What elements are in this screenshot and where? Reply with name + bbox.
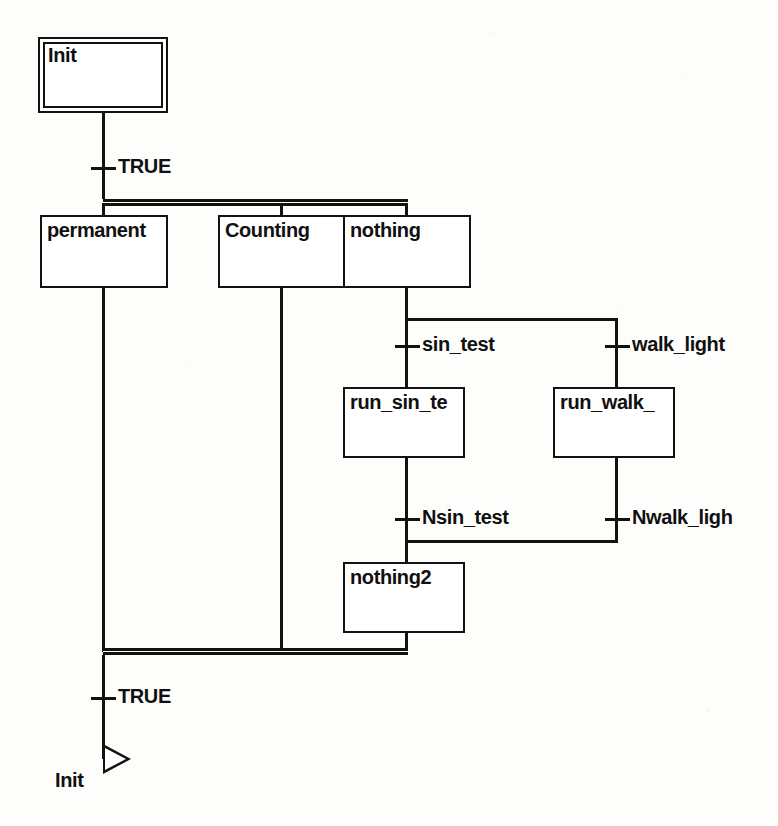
- link-run-walk-to-merge: [615, 458, 618, 543]
- link-walk-light-branch: [615, 318, 618, 389]
- step-run-sin-te[interactable]: run_sin_te: [343, 387, 465, 458]
- transition-label-bottom-true: TRUE: [118, 686, 171, 706]
- link-permanent-to-convergence: [102, 288, 105, 652]
- parallel-divergence-bar: [103, 199, 408, 206]
- step-init[interactable]: Init: [38, 37, 168, 113]
- step-counting[interactable]: Counting: [218, 215, 346, 288]
- link-counting-to-convergence: [280, 288, 283, 652]
- step-permanent[interactable]: permanent: [40, 215, 168, 288]
- step-permanent-label: permanent: [47, 218, 146, 242]
- transition-tick-init-true[interactable]: [91, 167, 116, 170]
- transition-label-sin-test: sin_test: [422, 334, 494, 354]
- selective-divergence-line: [405, 318, 617, 321]
- sfc-diagram-canvas: Init permanent Counting nothing run_sin_…: [0, 0, 778, 826]
- link-run-sin-te-to-merge: [405, 458, 408, 543]
- transition-tick-walk-light[interactable]: [605, 345, 630, 348]
- jump-arrow-icon[interactable]: [103, 744, 131, 774]
- step-run-walk[interactable]: run_walk_: [553, 387, 675, 458]
- link-divergence-to-nothing: [405, 203, 408, 217]
- parallel-convergence-bar: [103, 648, 408, 655]
- step-run-sin-te-label: run_sin_te: [350, 390, 447, 414]
- transition-label-nwalk-ligh: Nwalk_ligh: [632, 507, 732, 527]
- transition-label-init-true: TRUE: [118, 156, 171, 176]
- link-init-to-divergence: [102, 113, 105, 199]
- transition-label-walk-light: walk_light: [632, 334, 725, 354]
- jump-arrow-inner-cut: [105, 748, 126, 770]
- step-nothing[interactable]: nothing: [343, 215, 471, 288]
- step-counting-label: Counting: [225, 218, 310, 242]
- step-nothing2-label: nothing2: [350, 565, 431, 589]
- step-run-walk-label: run_walk_: [560, 390, 654, 414]
- transition-label-nsin-test: Nsin_test: [422, 507, 508, 527]
- link-sin-test-branch: [405, 318, 408, 389]
- selective-convergence-line: [405, 540, 618, 543]
- transition-tick-sin-test[interactable]: [395, 345, 420, 348]
- transition-tick-nsin-test[interactable]: [395, 518, 420, 521]
- link-merge-to-nothing2: [405, 540, 408, 564]
- step-init-label: Init: [48, 43, 76, 67]
- link-divergence-to-permanent: [102, 203, 105, 217]
- jump-target-label: Init: [55, 769, 83, 792]
- step-nothing-label: nothing: [350, 218, 421, 242]
- transition-tick-bottom-true[interactable]: [91, 697, 116, 700]
- transition-tick-nwalk-ligh[interactable]: [605, 518, 630, 521]
- link-divergence-to-counting: [280, 203, 283, 217]
- link-nothing-to-selective-divergence: [405, 288, 408, 320]
- step-nothing2[interactable]: nothing2: [343, 562, 465, 633]
